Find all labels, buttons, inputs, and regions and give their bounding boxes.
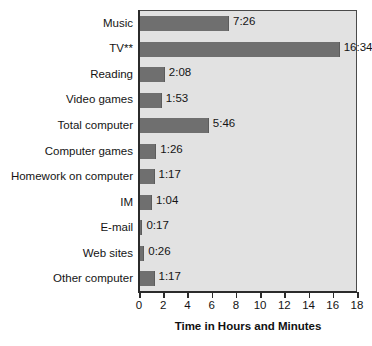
bar	[139, 67, 165, 82]
bar-row: 0:26	[139, 241, 357, 267]
tick-label: 6	[208, 298, 214, 312]
bar-value-label: 1:04	[156, 193, 178, 207]
tick-label: 0	[136, 298, 142, 312]
tick-label: 10	[254, 298, 267, 312]
x-axis-title: Time in Hours and Minutes	[139, 320, 357, 332]
bar	[139, 246, 144, 261]
bar-row: 5:46	[139, 113, 357, 139]
x-axis-tick-labels: 024681012141618	[139, 298, 357, 314]
bar	[139, 169, 155, 184]
bar-row: 1:17	[139, 164, 357, 190]
bar	[139, 42, 340, 57]
bar	[139, 93, 162, 108]
bar-value-label: 0:26	[148, 244, 170, 258]
bar-row: 1:26	[139, 139, 357, 165]
bar	[139, 195, 152, 210]
bar	[139, 144, 156, 159]
category-label: Homework on computer	[11, 169, 133, 183]
value-axis-line	[138, 10, 140, 292]
bar-value-label: 0:17	[146, 218, 168, 232]
category-label: Video games	[66, 92, 133, 106]
bar	[139, 220, 142, 235]
bar-value-label: 7:26	[233, 14, 255, 28]
bar-row: 7:26	[139, 11, 357, 37]
tick-label: 14	[302, 298, 315, 312]
bar-row: 1:17	[139, 266, 357, 292]
bar-value-label: 1:53	[166, 91, 188, 105]
tick-label: 12	[278, 298, 291, 312]
bar-row: 16:34	[139, 37, 357, 63]
tick-label: 4	[184, 298, 190, 312]
bar-row: 2:08	[139, 62, 357, 88]
plot-area: 7:2616:342:081:535:461:261:171:040:170:2…	[139, 10, 357, 291]
bar-value-label: 5:46	[213, 116, 235, 130]
bar	[139, 118, 209, 133]
bar-value-label: 2:08	[169, 65, 191, 79]
tick-label: 18	[351, 298, 364, 312]
category-label: Music	[103, 16, 133, 30]
category-label: Other computer	[53, 271, 133, 285]
bar-value-label: 1:17	[159, 167, 181, 181]
bar	[139, 271, 155, 286]
bar-value-label: 1:17	[159, 269, 181, 283]
bar-row: 1:04	[139, 190, 357, 216]
category-label: E-mail	[100, 220, 133, 234]
category-label: TV**	[109, 41, 133, 55]
bar-row: 0:17	[139, 215, 357, 241]
category-label: Reading	[90, 67, 133, 81]
tick-label: 16	[326, 298, 339, 312]
bar-row: 1:53	[139, 88, 357, 114]
category-label: Computer games	[45, 144, 133, 158]
tick-label: 2	[160, 298, 166, 312]
bar-value-label: 1:26	[160, 142, 182, 156]
tick-label: 8	[233, 298, 239, 312]
category-axis: MusicTV**ReadingVideo gamesTotal compute…	[0, 10, 136, 291]
bar	[139, 16, 229, 31]
category-label: IM	[120, 195, 133, 209]
category-label: Total computer	[58, 118, 133, 132]
category-label: Web sites	[83, 246, 133, 260]
bar-value-label: 16:34	[344, 40, 372, 54]
